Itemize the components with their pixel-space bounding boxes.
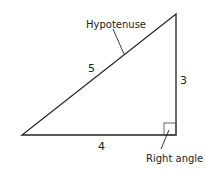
triangle — [22, 14, 176, 135]
right-triangle-diagram: Hypotenuse 5 3 4 Right angle — [0, 0, 206, 174]
hypotenuse-leader-line — [113, 29, 124, 54]
hypotenuse-label: Hypotenuse — [86, 19, 146, 30]
side-4-label: 4 — [98, 140, 105, 153]
right-angle-leader-line — [161, 130, 169, 149]
right-angle-marker — [164, 123, 176, 135]
side-5-label: 5 — [88, 62, 95, 75]
side-3-label: 3 — [180, 74, 187, 87]
right-angle-label: Right angle — [146, 153, 203, 164]
